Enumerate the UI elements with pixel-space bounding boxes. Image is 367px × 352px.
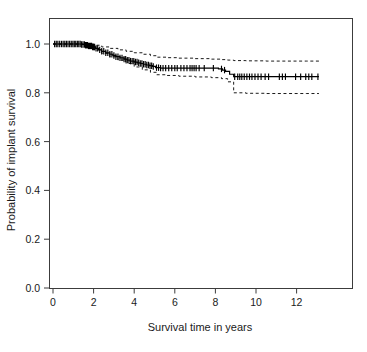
x-tick-label-12: 12	[291, 296, 303, 308]
y-tick-label-0_0: 0.0	[25, 282, 40, 294]
ci-lower-path	[53, 44, 319, 94]
x-axis-tick-labels: 0 2 4 6 8 10 12	[50, 296, 303, 308]
survival-plot-canvas: 1.0 0.8 0.6 0.4 0.2 0.0 0 2 4 6 8 10 12	[0, 0, 367, 352]
x-axis-title: Survival time in years	[148, 321, 253, 333]
x-tick-label-2: 2	[91, 296, 97, 308]
x-tick-label-6: 6	[172, 296, 178, 308]
x-tick-label-10: 10	[250, 296, 262, 308]
x-tick-label-4: 4	[131, 296, 137, 308]
x-tick-label-0: 0	[50, 296, 56, 308]
kaplan-meier-figure: 1.0 0.8 0.6 0.4 0.2 0.0 0 2 4 6 8 10 12	[0, 0, 367, 352]
y-axis-tick-labels: 1.0 0.8 0.6 0.4 0.2 0.0	[25, 38, 40, 294]
confidence-band-lower	[53, 44, 319, 94]
x-tick-label-8: 8	[212, 296, 218, 308]
y-tick-label-0_6: 0.6	[25, 136, 40, 148]
y-tick-label-0_4: 0.4	[25, 184, 40, 196]
y-axis-ticks	[44, 44, 50, 288]
y-tick-label-0_8: 0.8	[25, 87, 40, 99]
censor-marks-layer	[55, 41, 318, 80]
y-axis-title: Probability of implant survival	[5, 89, 17, 231]
y-tick-label-0_2: 0.2	[25, 233, 40, 245]
y-tick-label-1_0: 1.0	[25, 38, 40, 50]
